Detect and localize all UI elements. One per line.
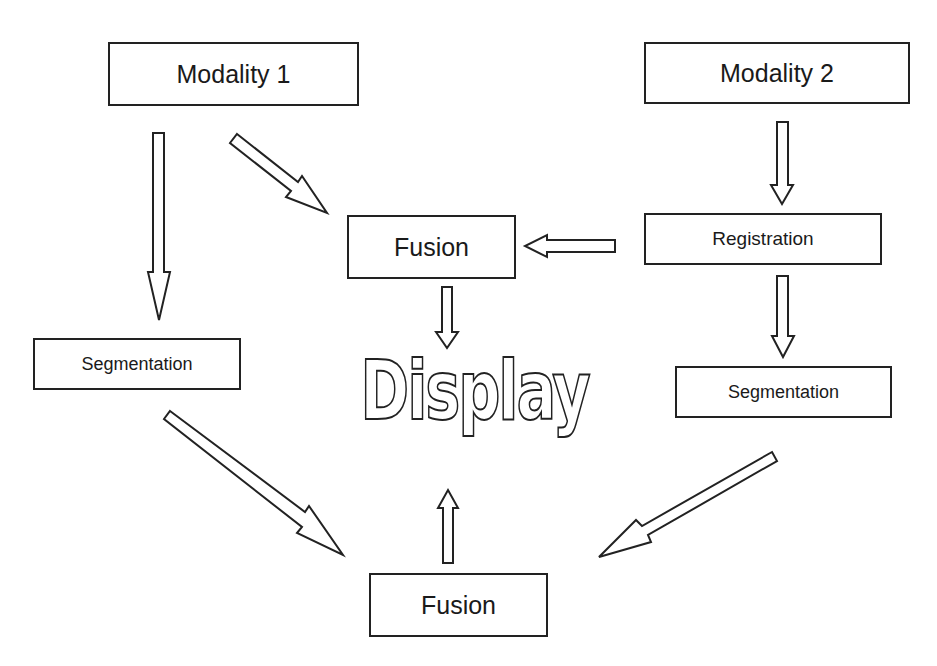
- arrow-registration-to-segmentation-right: [772, 276, 794, 357]
- node-registration: Registration: [644, 213, 882, 265]
- arrow-registration-to-fusion-top: [525, 235, 615, 257]
- node-modality-1: Modality 1: [108, 42, 359, 106]
- node-fusion-top: Fusion: [347, 215, 516, 279]
- node-segmentation-right-label: Segmentation: [728, 382, 839, 403]
- node-segmentation-left: Segmentation: [33, 338, 241, 390]
- arrow-fusion-top-to-display: [436, 287, 458, 348]
- node-registration-label: Registration: [712, 228, 813, 250]
- node-segmentation-right: Segmentation: [675, 366, 892, 418]
- node-modality-1-label: Modality 1: [177, 60, 291, 89]
- arrow-fusion-bottom-to-display: [438, 490, 458, 563]
- arrow-segmentation-left-to-fusion-bottom: [164, 411, 343, 555]
- node-modality-2-label: Modality 2: [720, 59, 834, 88]
- node-modality-2: Modality 2: [644, 42, 910, 104]
- arrow-modality1-to-segmentation-left: [148, 133, 170, 320]
- node-segmentation-left-label: Segmentation: [81, 354, 192, 375]
- node-fusion-bottom: Fusion: [369, 573, 548, 637]
- arrow-segmentation-right-to-fusion-bottom: [599, 452, 777, 557]
- arrow-modality1-to-fusion-top: [230, 134, 327, 213]
- arrow-modality2-to-registration: [771, 122, 793, 204]
- node-fusion-bottom-label: Fusion: [421, 591, 496, 620]
- display-label: Display: [360, 350, 536, 432]
- node-fusion-top-label: Fusion: [394, 233, 469, 262]
